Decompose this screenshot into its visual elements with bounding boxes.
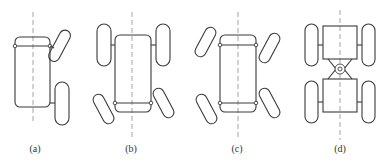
pivot-pin <box>338 67 342 71</box>
vehicle-body <box>115 35 151 112</box>
kingpin-joint <box>13 44 17 48</box>
kingpin-joint <box>149 101 153 105</box>
rear-left-wheel <box>305 81 318 123</box>
panel-a-vehicle <box>13 12 72 125</box>
panel-label-d: (d) <box>334 143 346 154</box>
rear-right-wheel-steered <box>257 86 282 119</box>
rear-right-wheel <box>362 81 375 123</box>
kingpin-joint <box>254 101 258 105</box>
panel-c-vehicle <box>193 12 282 140</box>
front-right-wheel <box>362 24 375 66</box>
front-right-wheel-steered <box>257 31 282 64</box>
steering-diagram <box>0 0 388 163</box>
kingpin-joint <box>113 101 117 105</box>
vehicle-body <box>15 37 50 107</box>
rear-left-wheel-steered <box>91 92 116 125</box>
rear-right-wheel-steered <box>151 86 176 119</box>
rear-wheel <box>55 82 69 125</box>
rear-left-wheel-steered <box>194 92 219 125</box>
panel-label-b: (b) <box>125 143 137 154</box>
front-left-wheel-steered <box>193 25 218 58</box>
panel-b-vehicle <box>91 12 176 140</box>
front-right-wheel <box>156 24 170 66</box>
panel-label-a: (a) <box>29 143 40 154</box>
front-left-wheel <box>305 24 318 66</box>
panel-label-c: (c) <box>231 143 242 154</box>
kingpin-joint <box>218 101 222 105</box>
kingpin-joint <box>218 43 222 47</box>
panel-d-vehicle <box>305 10 375 140</box>
kingpin-joint <box>254 43 258 47</box>
front-left-wheel <box>97 24 111 66</box>
